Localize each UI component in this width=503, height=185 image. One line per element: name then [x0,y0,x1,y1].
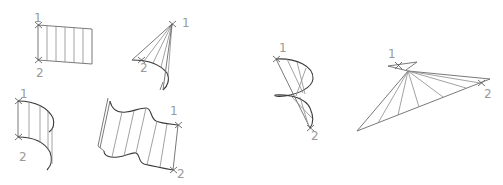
label-1: 1 [20,87,28,101]
label-1: 1 [279,41,287,55]
figure-cylinder: 1 2 [15,87,54,170]
label-2: 2 [484,87,492,101]
label-2: 2 [311,129,319,143]
ruled-surfaces-diagram: 1 2 1 2 1 2 [0,0,503,185]
label-2: 2 [177,167,185,181]
label-1: 1 [170,104,178,118]
figure-fan-surface: 1 2 [357,47,492,131]
figure-wavy-surface: 1 2 [98,98,185,181]
label-2: 2 [19,150,27,164]
label-1: 1 [182,16,190,30]
figure-helicoid: 1 2 [273,41,319,143]
label-1: 1 [34,11,42,25]
figure-cone: 1 2 [132,16,190,90]
figure-plane-strip: 1 2 [34,11,92,80]
label-2: 2 [36,66,44,80]
label-2: 2 [140,61,148,75]
label-1: 1 [388,47,396,61]
